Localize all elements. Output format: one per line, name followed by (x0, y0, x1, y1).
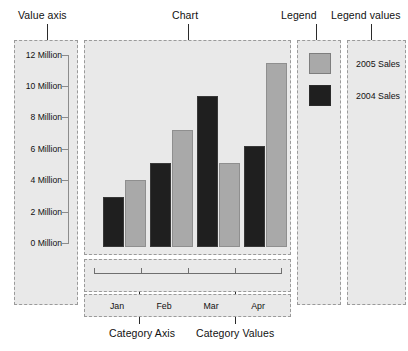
category-value-jan: Jan (110, 301, 124, 311)
value-axis-tick-4 (62, 180, 68, 181)
bar-group-apr (244, 48, 288, 247)
legend-panel (297, 40, 341, 305)
leader-line-legend (316, 24, 317, 40)
bar-jan-2005-sales[interactable] (125, 180, 146, 247)
value-axis-tick-6 (62, 149, 68, 150)
leader-line-legend-values (371, 24, 372, 40)
value-axis-tick-12 (62, 55, 68, 56)
value-axis-panel: 12 Million 10 Million 8 Million 6 Millio… (14, 40, 78, 305)
bar-feb-2005-sales[interactable] (172, 130, 193, 247)
value-axis-tick-0 (62, 243, 68, 244)
category-axis-tick-2 (188, 268, 189, 274)
chart-panel (84, 40, 291, 255)
bar-group-feb (150, 48, 194, 247)
legend-values-panel: 2005 Sales 2004 Sales (347, 40, 406, 305)
category-axis-tick-3 (235, 268, 236, 274)
category-axis-panel (84, 259, 291, 292)
value-axis-tick-10 (62, 86, 68, 87)
value-axis-label-10: 10 Million (26, 82, 62, 91)
value-axis-label-2: 2 Million (30, 208, 62, 217)
callout-label-legend-values: Legend values (331, 9, 401, 21)
category-value-apr: Apr (251, 301, 265, 311)
bar-group-jan (103, 48, 147, 247)
leader-line-chart (188, 24, 189, 40)
value-axis-line (68, 55, 69, 244)
callout-label-chart: Chart (172, 9, 198, 21)
leader-line-value-axis (47, 24, 48, 40)
category-axis-tick-1 (141, 268, 142, 274)
callout-label-category-axis: Category Axis (109, 327, 175, 339)
callout-label-category-values: Category Values (196, 327, 274, 339)
legend-label-2005-sales: 2005 Sales (356, 59, 400, 69)
value-axis-tick-8 (62, 117, 68, 118)
category-value-mar: Mar (203, 301, 218, 311)
value-axis-label-8: 8 Million (30, 113, 62, 122)
value-axis-label-4: 4 Million (30, 176, 62, 185)
value-axis-label-0: 0 Million (30, 239, 62, 248)
category-axis-right-cap (281, 268, 282, 274)
bar-mar-2005-sales[interactable] (219, 163, 240, 247)
bar-apr-2005-sales[interactable] (266, 63, 287, 247)
bar-jan-2004-sales[interactable] (103, 197, 124, 247)
callout-label-legend: Legend (281, 9, 317, 21)
legend-label-2004-sales: 2004 Sales (356, 91, 400, 101)
value-axis-label-12: 12 Million (26, 51, 62, 60)
legend-swatch-2004-sales[interactable] (309, 85, 331, 106)
callout-label-value-axis: Value axis (18, 9, 67, 21)
category-value-feb: Feb (156, 301, 171, 311)
value-axis-tick-2 (62, 212, 68, 213)
bar-feb-2004-sales[interactable] (150, 163, 171, 247)
bar-mar-2004-sales[interactable] (197, 96, 218, 247)
category-values-panel: JanFebMarApr (84, 294, 291, 317)
legend-swatch-2005-sales[interactable] (309, 53, 331, 74)
value-axis-label-6: 6 Million (30, 145, 62, 154)
bar-group-mar (197, 48, 241, 247)
bar-apr-2004-sales[interactable] (244, 146, 265, 247)
plot-area (93, 48, 282, 247)
category-axis-left-cap (94, 268, 95, 274)
